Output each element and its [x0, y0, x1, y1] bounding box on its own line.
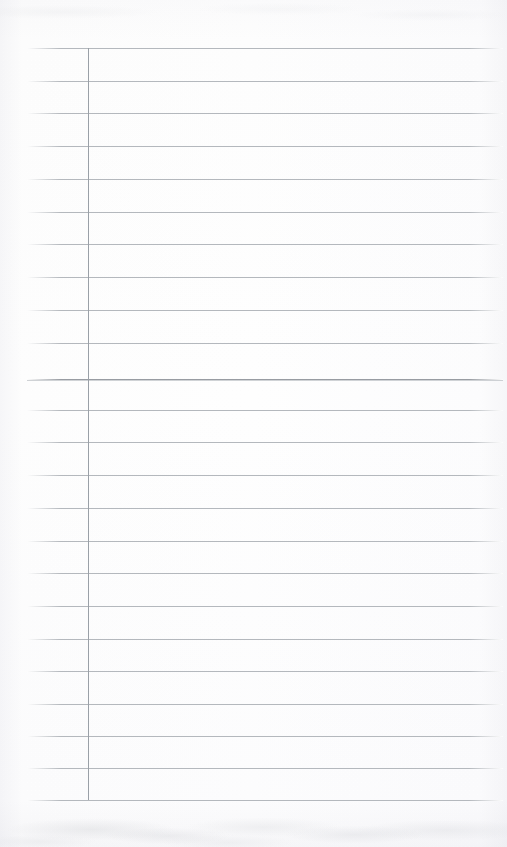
ruled-line: [27, 606, 503, 607]
ruled-line: [27, 541, 503, 542]
ruled-line: [27, 81, 503, 82]
ruled-line: [27, 410, 503, 411]
scanned-paper-page: [0, 0, 507, 847]
ruled-line: [27, 639, 503, 640]
scan-noise-top-edge: [0, 0, 507, 30]
left-margin-rule: [88, 48, 89, 800]
ruled-line: [27, 475, 503, 476]
ruled-line: [27, 343, 503, 344]
paper-background-tone: [0, 0, 507, 847]
ruled-line: [27, 48, 503, 49]
ruled-line: [27, 146, 503, 147]
ruled-line: [27, 379, 503, 380]
ruled-line: [27, 277, 503, 278]
scan-noise-bottom-edge: [0, 803, 507, 847]
ruled-lines-layer: [0, 0, 507, 847]
ruled-line: [27, 768, 503, 769]
ruled-line: [27, 310, 503, 311]
ruled-line: [27, 800, 503, 801]
ruled-line: [27, 212, 503, 213]
ruled-line: [27, 704, 503, 705]
ruled-line: [27, 442, 503, 443]
ruled-line: [27, 113, 503, 114]
ruled-line: [27, 671, 503, 672]
ruled-line: [27, 736, 503, 737]
ruled-line: [27, 573, 503, 574]
ruled-line: [27, 508, 503, 509]
ruled-line: [27, 179, 503, 180]
ruled-line: [27, 244, 503, 245]
